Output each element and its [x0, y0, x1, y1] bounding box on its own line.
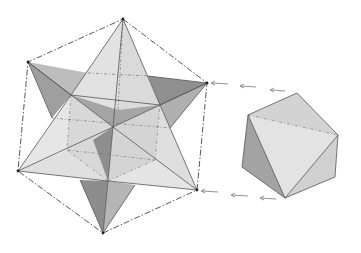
illustration: [0, 0, 361, 253]
arrow-left-icon: [231, 193, 248, 197]
stellated-octahedron: [17, 18, 209, 235]
octahedron: [242, 93, 338, 198]
arrow-left-icon: [260, 196, 276, 200]
arrows-bottom: [201, 189, 276, 200]
arrow-left-icon: [240, 84, 256, 88]
arrow-left-icon: [270, 88, 285, 92]
arrow-left-icon: [211, 81, 228, 85]
arrows-top: [211, 81, 285, 92]
arrow-left-icon: [201, 189, 218, 193]
polyhedra-drawing: [0, 0, 361, 253]
